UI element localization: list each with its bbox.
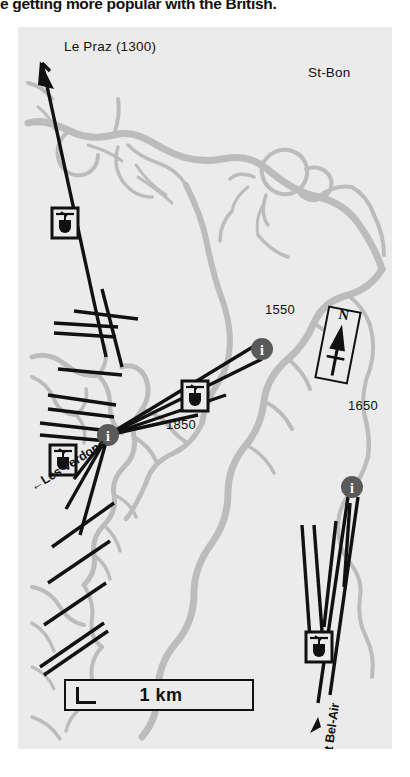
info-marker-1850-label: i	[106, 429, 110, 444]
article-headline: e getting more popular with the British.	[0, 0, 410, 12]
gondola-icon-bel-air[interactable]	[306, 632, 332, 662]
scale-bar: 1 km	[64, 679, 254, 711]
elevation-label-1850: 1850	[166, 417, 196, 432]
elevation-label-1550: 1550	[265, 302, 295, 317]
elevation-label-1650: 1650	[348, 398, 378, 413]
scale-bar-label: 1 km	[66, 681, 256, 709]
bel-air-arrow-icon	[310, 717, 321, 733]
gondola-icon-le-praz[interactable]	[52, 208, 78, 238]
place-label-st-bon: St-Bon	[308, 65, 350, 80]
info-marker-1650-label: i	[350, 481, 354, 496]
info-marker-1550-label: i	[260, 343, 264, 358]
gondola-icon-mid-upper[interactable]	[182, 381, 208, 411]
ski-resort-map: i i i	[18, 27, 392, 749]
map-graphics: i i i	[18, 27, 392, 749]
place-label-le-praz: Le Praz (1300)	[64, 39, 156, 54]
